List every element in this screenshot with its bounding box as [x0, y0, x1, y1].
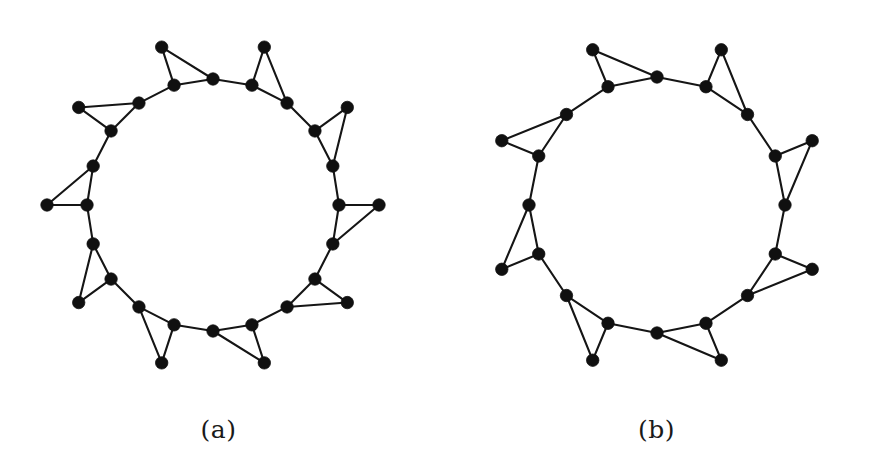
graph-vertex-inner [533, 150, 545, 162]
vertex-group [496, 44, 819, 367]
vertex-group [41, 41, 385, 369]
figure-a-caption: (a) [0, 410, 437, 450]
graph-vertex-inner [741, 289, 753, 301]
graph-vertex-inner [533, 248, 545, 260]
edge-group [502, 50, 812, 360]
graph-vertex-inner [327, 160, 339, 172]
graph-edge-spoke [162, 47, 213, 79]
graph-edge-spoke [264, 47, 287, 103]
graph-edge-ring [529, 156, 539, 205]
graph-vertex-inner [309, 273, 321, 285]
graph-vertex-inner [779, 199, 791, 211]
graph-vertex-outer [73, 101, 85, 113]
graph-vertex-inner [133, 301, 145, 313]
graph-edge-ring [566, 87, 608, 115]
graph-vertex-outer [715, 354, 727, 366]
graph-vertex-outer [587, 354, 599, 366]
graph-edge-ring [775, 205, 785, 254]
graph-edge-spoke [139, 307, 162, 363]
graph-vertex-inner [333, 199, 345, 211]
graph-vertex-inner [133, 97, 145, 109]
figure-b: (b) [438, 0, 875, 466]
graph-edge-ring [539, 254, 567, 296]
graph-vertex-inner [700, 81, 712, 93]
graph-vertex-outer [715, 44, 727, 56]
graph-vertex-inner [769, 150, 781, 162]
graph-vertex-inner [309, 125, 321, 137]
figure-b-graph [438, 0, 875, 410]
graph-vertex-outer [156, 357, 168, 369]
figure-panel: (a) (b) [0, 0, 875, 466]
graph-edge-ring [657, 323, 706, 333]
graph-vertex-inner [327, 238, 339, 250]
figure-a: (a) [0, 0, 437, 466]
graph-vertex-inner [207, 325, 219, 337]
graph-vertex-outer [258, 357, 270, 369]
graph-vertex-inner [700, 317, 712, 329]
graph-vertex-inner [651, 71, 663, 83]
graph-vertex-outer [258, 41, 270, 53]
graph-vertex-inner [168, 319, 180, 331]
graph-vertex-inner [81, 199, 93, 211]
graph-vertex-inner [105, 273, 117, 285]
graph-vertex-inner [281, 301, 293, 313]
graph-vertex-inner [207, 73, 219, 85]
graph-vertex-outer [806, 135, 818, 147]
graph-edge-spoke [213, 331, 264, 363]
graph-edge-ring [706, 296, 748, 324]
graph-edge-spoke [287, 303, 347, 307]
graph-vertex-inner [87, 238, 99, 250]
graph-edge-ring [529, 205, 539, 254]
graph-vertex-inner [560, 289, 572, 301]
graph-vertex-outer [41, 199, 53, 211]
graph-vertex-outer [73, 296, 85, 308]
graph-edge-ring [608, 323, 657, 333]
graph-vertex-outer [496, 135, 508, 147]
graph-vertex-outer [587, 44, 599, 56]
graph-vertex-outer [341, 101, 353, 113]
graph-vertex-inner [523, 199, 535, 211]
graph-vertex-outer [806, 263, 818, 275]
graph-vertex-inner [87, 160, 99, 172]
graph-vertex-inner [105, 125, 117, 137]
edge-group [47, 47, 379, 363]
graph-vertex-outer [373, 199, 385, 211]
graph-vertex-inner [168, 79, 180, 91]
graph-vertex-outer [496, 263, 508, 275]
graph-vertex-inner [246, 319, 258, 331]
graph-vertex-inner [651, 327, 663, 339]
graph-vertex-inner [741, 108, 753, 120]
graph-vertex-inner [602, 317, 614, 329]
graph-vertex-inner [560, 108, 572, 120]
graph-vertex-inner [602, 81, 614, 93]
graph-vertex-outer [341, 296, 353, 308]
graph-vertex-inner [281, 97, 293, 109]
graph-vertex-inner [769, 248, 781, 260]
graph-edge-ring [775, 156, 785, 205]
graph-edge-ring [657, 77, 706, 87]
figure-b-caption: (b) [438, 410, 875, 450]
graph-edge-ring [748, 114, 776, 156]
graph-edge-spoke [79, 103, 139, 107]
figure-a-graph [0, 0, 437, 410]
graph-vertex-inner [246, 79, 258, 91]
graph-edge-ring [608, 77, 657, 87]
graph-vertex-outer [156, 41, 168, 53]
